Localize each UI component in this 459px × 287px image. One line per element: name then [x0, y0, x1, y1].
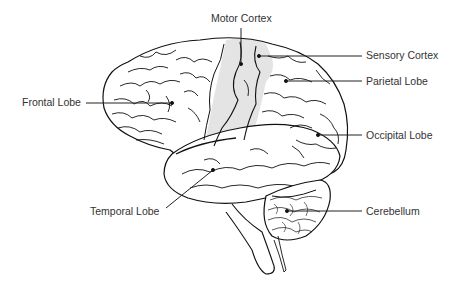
label-motor-cortex: Motor Cortex [211, 13, 272, 24]
label-cerebellum: Cerebellum [366, 206, 420, 217]
label-temporal-lobe: Temporal Lobe [90, 206, 159, 217]
label-frontal-lobe: Frontal Lobe [22, 97, 81, 108]
label-occipital-lobe: Occipital Lobe [366, 130, 433, 141]
brain-illustration [0, 0, 459, 287]
brain-diagram: Motor Cortex Sensory Cortex Parietal Lob… [0, 0, 459, 287]
label-parietal-lobe: Parietal Lobe [366, 76, 428, 87]
label-sensory-cortex: Sensory Cortex [366, 50, 438, 61]
frontal-gyri [112, 50, 212, 144]
spinal-cord [274, 236, 286, 272]
